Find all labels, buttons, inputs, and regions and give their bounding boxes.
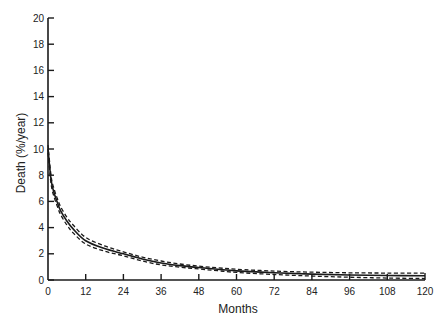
- y-tick-label: 20: [33, 13, 45, 24]
- x-tick-label: 36: [156, 286, 168, 297]
- x-tick-label: 108: [379, 286, 396, 297]
- y-tick-label: 8: [38, 170, 44, 181]
- x-tick-label: 60: [231, 286, 243, 297]
- y-ticks: 02468101214161820: [33, 13, 54, 286]
- y-tick-label: 0: [38, 275, 44, 286]
- y-tick-label: 2: [38, 248, 44, 259]
- x-tick-label: 72: [269, 286, 281, 297]
- x-tick-label: 48: [193, 286, 205, 297]
- x-tick-label: 0: [45, 286, 51, 297]
- y-tick-label: 4: [38, 222, 44, 233]
- confidence-band-line: [48, 145, 425, 273]
- estimate-line: [48, 149, 425, 276]
- x-tick-label: 12: [80, 286, 92, 297]
- y-tick-label: 10: [33, 144, 45, 155]
- y-axis-label: Death (%/year): [14, 113, 28, 194]
- y-tick-label: 14: [33, 91, 45, 102]
- axes: [48, 18, 425, 280]
- confidence-band-line: [48, 153, 425, 279]
- y-tick-label: 16: [33, 65, 45, 76]
- hazard-chart: 02468101214161820 0122436486072849610812…: [0, 0, 446, 328]
- x-ticks: 01224364860728496108120: [45, 274, 434, 297]
- series-layer: [48, 145, 425, 278]
- x-tick-label: 96: [344, 286, 356, 297]
- y-tick-label: 18: [33, 39, 45, 50]
- x-axis-label: Months: [218, 302, 257, 316]
- x-tick-label: 24: [118, 286, 130, 297]
- y-tick-label: 6: [38, 196, 44, 207]
- x-tick-label: 84: [306, 286, 318, 297]
- y-tick-label: 12: [33, 117, 45, 128]
- x-tick-label: 120: [417, 286, 434, 297]
